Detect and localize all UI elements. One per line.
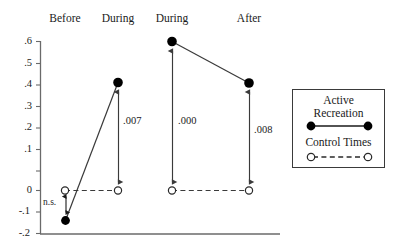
column-header-during-1: During xyxy=(88,13,148,25)
series-active-recreation-panel-1 xyxy=(61,78,123,225)
y-axis xyxy=(36,41,41,234)
y-tick-label: .1 xyxy=(8,144,32,155)
y-tick-label: 0 xyxy=(8,185,32,196)
y-tick-label: -.2 xyxy=(6,228,30,239)
column-header-after: After xyxy=(219,13,279,25)
legend-sample-control-times xyxy=(293,150,384,164)
chart-legend: Active Recreation Control Times xyxy=(292,89,385,168)
legend-sample-active-recreation xyxy=(293,119,384,133)
series-control-times-panel-2 xyxy=(168,187,252,194)
y-tick-label: .3 xyxy=(8,101,32,112)
pvalue-label-000: .000 xyxy=(178,116,196,127)
pvalue-label-007: .007 xyxy=(123,116,141,127)
significance-label-ns: n.s. xyxy=(43,198,56,208)
pvalue-label-008: .008 xyxy=(254,125,272,136)
series-active-recreation-panel-2 xyxy=(167,37,254,88)
legend-entry-control-times-label: Control Times xyxy=(293,133,384,149)
y-tick-label: .5 xyxy=(8,58,32,69)
column-header-during-2: During xyxy=(142,13,202,25)
column-header-before: Before xyxy=(35,13,95,25)
legend-entry-active-recreation-label-line1: Active xyxy=(293,90,384,107)
y-tick-label: .6 xyxy=(8,36,32,47)
chart-container: Before During During After .6 .5 .4 .3 .… xyxy=(0,0,394,251)
legend-entry-active-recreation-label-line2: Recreation xyxy=(293,107,384,120)
y-tick-label: .2 xyxy=(8,122,32,133)
y-tick-label: .4 xyxy=(8,79,32,90)
series-control-times-panel-1 xyxy=(61,187,121,194)
y-tick-label: -.1 xyxy=(6,206,30,217)
